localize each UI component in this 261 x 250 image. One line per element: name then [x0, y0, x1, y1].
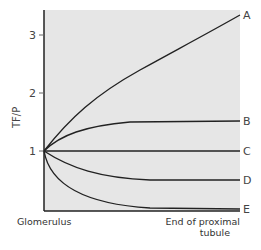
curve-label-a: A [243, 9, 251, 22]
plot-area [44, 10, 240, 211]
y-tick-label-1: 1 [29, 145, 36, 158]
x-label-end-proximal-1: End of proximal [166, 216, 240, 227]
y-tick-label-2: 2 [29, 87, 36, 100]
curve-label-e: E [243, 203, 250, 216]
tf-p-chart: 3 2 1 TF/P A B C D E Glomerulus End of p… [0, 0, 261, 250]
x-label-end-proximal-2: tubule [200, 227, 230, 238]
curve-label-c: C [243, 145, 251, 158]
x-label-glomerulus: Glomerulus [17, 216, 71, 227]
y-axis-title: TF/P [11, 107, 22, 129]
curve-label-d: D [243, 174, 251, 187]
y-tick-label-3: 3 [29, 29, 36, 42]
curve-label-b: B [243, 115, 251, 128]
